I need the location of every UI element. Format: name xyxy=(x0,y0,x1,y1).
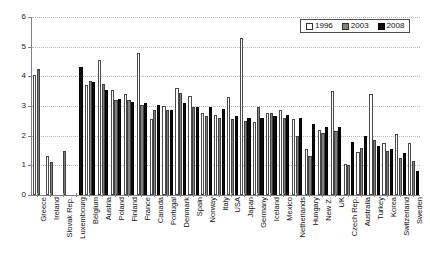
bar xyxy=(279,110,282,195)
x-axis-label: Netherlands xyxy=(299,197,307,237)
bar xyxy=(227,97,230,195)
bar xyxy=(162,106,165,195)
legend-item-1996: 1996 xyxy=(306,22,333,30)
x-axis-label: Mexico xyxy=(286,197,294,221)
bar xyxy=(247,118,250,195)
bar xyxy=(111,90,114,195)
bar-group xyxy=(239,17,252,195)
x-axis-label: Turkey xyxy=(377,197,385,220)
bar xyxy=(283,118,286,195)
bar xyxy=(201,113,204,195)
bar xyxy=(89,81,92,195)
bar xyxy=(240,38,243,195)
bar xyxy=(299,118,302,195)
bars-layer xyxy=(32,17,420,195)
bar xyxy=(344,164,347,195)
bar xyxy=(266,113,269,195)
bar xyxy=(192,107,195,195)
bar-group xyxy=(394,17,407,195)
bar-group xyxy=(381,17,394,195)
x-axis-tick xyxy=(322,193,323,197)
bar-group xyxy=(200,17,213,195)
bar xyxy=(382,143,385,195)
bar-group xyxy=(317,17,330,195)
bar xyxy=(347,165,350,195)
x-axis-label: Belgium xyxy=(92,197,100,224)
bar-group xyxy=(265,17,278,195)
x-axis-tick xyxy=(63,193,64,197)
bar xyxy=(188,96,191,195)
x-axis-label: Sweden xyxy=(416,197,424,224)
bar xyxy=(386,151,389,196)
x-axis-label: Australia xyxy=(364,197,372,226)
x-axis-label: Iceland xyxy=(273,197,281,221)
x-axis-tick xyxy=(193,193,194,197)
x-axis-tick xyxy=(102,193,103,197)
bar xyxy=(209,107,212,195)
x-axis-label: Italy xyxy=(222,197,230,211)
bar-group xyxy=(97,17,110,195)
bar xyxy=(331,91,334,195)
bar xyxy=(33,75,36,195)
x-axis-tick xyxy=(167,193,168,197)
bar xyxy=(373,140,376,195)
x-axis-label: Finland xyxy=(131,197,139,222)
bar xyxy=(399,158,402,195)
x-axis-tick xyxy=(180,193,181,197)
bar-group xyxy=(342,17,355,195)
x-axis-label: Norway xyxy=(209,197,217,222)
bar xyxy=(205,116,208,195)
legend-item-2003: 2003 xyxy=(342,22,369,30)
x-axis-tick xyxy=(374,193,375,197)
bar-chart: 0123456 GreeceIrelandSlovak Rep.Luxembou… xyxy=(0,0,430,271)
bar xyxy=(377,146,380,195)
x-axis-tick xyxy=(115,193,116,197)
bar-group xyxy=(135,17,148,195)
bar xyxy=(395,134,398,195)
x-axis-tick xyxy=(348,193,349,197)
bar xyxy=(37,69,40,195)
y-axis-tick xyxy=(28,195,32,196)
x-axis-label: Canada xyxy=(157,197,165,223)
bar xyxy=(50,162,53,195)
bar xyxy=(98,60,101,195)
x-axis-label: Spain xyxy=(196,197,204,216)
x-axis-label: UK xyxy=(338,197,346,207)
bar-group xyxy=(84,17,97,195)
bar-group xyxy=(45,17,58,195)
bar xyxy=(270,113,273,195)
bar-group xyxy=(110,17,123,195)
bar xyxy=(318,130,321,195)
bar xyxy=(273,116,276,195)
x-axis-label: Austria xyxy=(105,197,113,220)
bar xyxy=(416,171,419,195)
bar xyxy=(63,151,66,196)
bar-group xyxy=(71,17,84,195)
bar xyxy=(253,122,256,195)
bar-group xyxy=(213,17,226,195)
x-axis-tick xyxy=(141,193,142,197)
x-axis-labels: GreeceIrelandSlovak Rep.LuxembourgBelgiu… xyxy=(31,197,419,269)
bar xyxy=(235,116,238,195)
x-axis-label: Poland xyxy=(118,197,126,220)
y-axis-tick-label: 6 xyxy=(22,13,26,21)
legend-swatch-1996 xyxy=(306,23,313,30)
bar-group xyxy=(368,17,381,195)
bar-group xyxy=(148,17,161,195)
bar xyxy=(244,121,247,195)
y-axis-tick-label: 0 xyxy=(22,191,26,199)
bar-group xyxy=(304,17,317,195)
legend-label-2003: 2003 xyxy=(351,22,369,30)
x-axis-label: New Z. xyxy=(325,197,333,221)
bar xyxy=(214,115,217,195)
bar xyxy=(296,136,299,195)
x-axis-label: Portugal xyxy=(170,197,178,225)
legend-label-1996: 1996 xyxy=(315,22,333,30)
bar xyxy=(196,107,199,195)
bar xyxy=(408,143,411,195)
x-axis-label: Slovak Rep. xyxy=(66,197,74,237)
bar xyxy=(118,99,121,195)
bar xyxy=(351,142,354,195)
bar xyxy=(140,105,143,195)
x-axis-label: Germany xyxy=(260,197,268,228)
